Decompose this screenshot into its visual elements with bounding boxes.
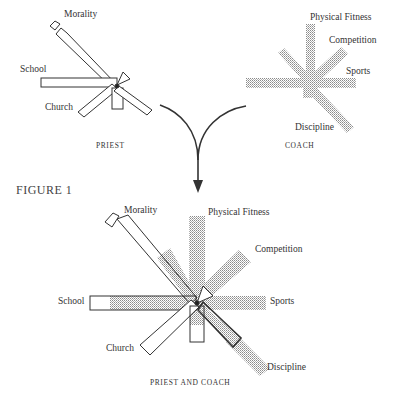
merge-arrow bbox=[160, 105, 246, 182]
priest-label-church: Church bbox=[45, 102, 73, 112]
priest-label-morality: Morality bbox=[64, 9, 97, 19]
priest-morality-tip bbox=[50, 21, 60, 30]
combined-label-school: School bbox=[58, 296, 84, 306]
figure-canvas bbox=[0, 0, 395, 398]
combined-school-white bbox=[91, 297, 109, 309]
combined-label-discipline: Discipline bbox=[267, 362, 306, 372]
coach-label-physical-fitness: Physical Fitness bbox=[310, 12, 372, 22]
priest-school-bar bbox=[41, 78, 117, 87]
priest-upright-tip bbox=[117, 72, 130, 85]
combined-down-white bbox=[191, 326, 203, 341]
coach-label-sports: Sports bbox=[346, 66, 370, 76]
coach-down-stub bbox=[303, 84, 313, 98]
priest-label-school: School bbox=[20, 64, 46, 74]
combined-discipline-stipple-inner bbox=[198, 306, 242, 346]
combined-label-morality: Morality bbox=[124, 205, 157, 215]
priest-center bbox=[115, 84, 119, 88]
coach-label-competition: Competition bbox=[329, 35, 377, 45]
combined-caption: PRIEST AND COACH bbox=[150, 378, 230, 387]
arrowhead-icon bbox=[193, 180, 203, 193]
combined-label-sports: Sports bbox=[270, 296, 294, 306]
priest-caption: PRIEST bbox=[96, 141, 125, 150]
combined-morality-tip bbox=[105, 213, 119, 227]
combined-label-competition: Competition bbox=[255, 244, 303, 254]
combined-center bbox=[195, 301, 199, 305]
coach-label-discipline: Discipline bbox=[295, 122, 334, 132]
figure-label: FIGURE 1 bbox=[16, 183, 72, 198]
combined-label-physical-fitness: Physical Fitness bbox=[208, 207, 270, 217]
combined-label-church: Church bbox=[106, 343, 134, 353]
coach-caption: COACH bbox=[285, 141, 314, 150]
coach-sports-bar bbox=[246, 78, 356, 88]
